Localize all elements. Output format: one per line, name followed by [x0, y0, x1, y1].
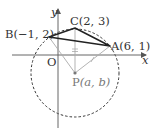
- y-axis-label: y: [50, 5, 58, 19]
- point-P-coords: (a, b): [80, 75, 111, 89]
- origin-label: O: [47, 55, 56, 69]
- x-axis-label: x: [142, 53, 149, 67]
- point-P-label: P(a, b): [72, 75, 110, 89]
- circumcircle-diagram: y x O C(2, 3) B(−1, 2) A(6, 1) P(a, b): [0, 0, 155, 138]
- tick-mark-PA: [91, 57, 94, 62]
- point-C-label: C(2, 3): [70, 14, 110, 28]
- point-A-label: A(6, 1): [110, 39, 150, 53]
- point-B-label: B(−1, 2): [5, 27, 54, 41]
